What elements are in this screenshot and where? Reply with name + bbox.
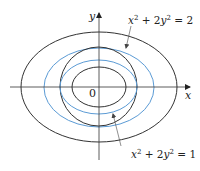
origin-label: 0 (89, 87, 96, 100)
y-axis-label: y (88, 10, 96, 23)
eq-top-rhs: = 2 (171, 14, 193, 26)
eq-bottom-plus: + 2 (141, 148, 163, 160)
eq-bottom-rhs: = 1 (174, 148, 196, 160)
top-label-pointer (126, 26, 131, 48)
eq-top-plus: + 2 (138, 14, 160, 26)
x-axis-label: x (185, 89, 192, 102)
bottom-equation-label: x2 + 2y2 = 1 (131, 148, 196, 160)
top-equation-label: x2 + 2y2 = 2 (128, 14, 193, 26)
level-curves-diagram: x y 0 x2 + 2y2 = 2 x2 + 2y2 = 1 (0, 0, 200, 171)
